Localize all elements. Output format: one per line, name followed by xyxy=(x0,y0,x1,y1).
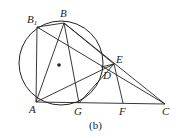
label-d: D xyxy=(102,69,111,81)
segment-b-g xyxy=(64,23,79,103)
caption: (b) xyxy=(89,119,102,132)
label-f: F xyxy=(118,105,126,117)
segment-b1-a xyxy=(36,27,37,102)
segment-a-c xyxy=(36,102,165,104)
center-dot xyxy=(57,63,61,67)
circumcircle xyxy=(19,21,103,105)
label-a: A xyxy=(28,103,36,115)
label-e: E xyxy=(115,53,123,65)
geometry-diagram: B1 B A G D E F C (b) xyxy=(0,0,180,138)
segments xyxy=(36,23,165,104)
segment-b1-b xyxy=(37,23,64,27)
label-c: C xyxy=(162,105,170,117)
label-b1: B1 xyxy=(27,13,37,27)
label-g: G xyxy=(74,105,82,117)
label-b: B xyxy=(60,7,67,19)
segment-e-f xyxy=(114,64,123,103)
